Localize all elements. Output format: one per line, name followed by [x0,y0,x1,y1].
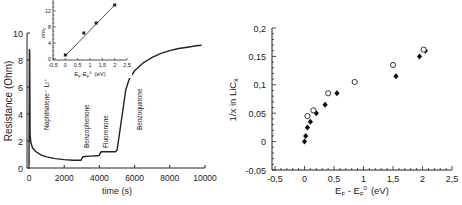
open-circle-point [305,113,310,118]
x-tick-label: 2,5 [123,62,131,68]
y-tick-label: 0 [18,164,23,174]
x-tick-label: 2000 [55,173,74,183]
filled-diamond-point [305,124,310,130]
x-tick-label: -0,5 [48,62,57,68]
y-tick-label: 8 [18,56,23,66]
inset-plot: 04812 -0,500,511,522,5 σ/σ₀ EF-EF0(eV) [40,0,132,79]
right-y-axis-label: 1/x in LiCx [227,78,239,122]
x-tick-label: 6000 [125,173,144,183]
y-tick-label: 0,05 [248,109,266,119]
right-y-ticks: -0,0500,050,10,150,2 [245,24,276,176]
y-tick-label: 4 [18,110,23,120]
filled-diamond-point [334,90,339,96]
label-fluorenone: Fluorenone [102,115,109,148]
x-tick-label: 8000 [160,173,179,183]
inset-y-axis-label: σ/σ₀ [40,28,46,39]
left-y-axis-label: Resistance (Ohm) [3,61,14,142]
x-tick-label: 0,5 [74,62,82,68]
label-benzophenone: Benzophenone [83,104,91,148]
x-tick-label: -0,5 [267,174,283,184]
y-tick-label: 6 [18,83,23,93]
x-tick-label: 2 [113,62,116,68]
x-tick-label: 1,5 [387,174,400,184]
label-benzoquinone: Benzoquinone [136,88,144,130]
open-circle-point [352,79,357,84]
y-tick-label: 0 [261,137,266,147]
data-point [95,22,98,25]
y-tick-label: 0,2 [253,24,266,34]
x-tick-label: 1,5 [99,62,107,68]
open-circle-point [390,62,395,67]
x-tick-label: 10000 [193,173,217,183]
y-tick-label: 2 [18,137,23,147]
x-tick-label: 0 [64,62,67,68]
scatter-points [302,47,428,145]
x-tick-label: 1 [361,174,366,184]
filled-diamond-point [323,102,328,108]
open-circle-point [326,91,331,96]
y-tick-label: 0,15 [248,52,266,62]
x-tick-label: 2,5 [446,174,459,184]
filled-diamond-point [417,53,422,59]
right-plot: -0,0500,050,10,150,2 -0,500,511,522,5 1/… [227,24,458,198]
y-tick-label: 12 [45,8,51,14]
right-x-axis-label: EF - EF0(eV) [335,185,389,197]
data-point [113,4,116,7]
open-circle-point [421,47,426,52]
filled-diamond-point [308,119,313,125]
data-point [82,32,85,35]
right-x-ticks: -0,500,511,522,5 [267,166,458,184]
label-naphthalene: Naphthalene⁻ Li⁺ [43,78,51,130]
figure: 0246810 0200040006000800010000 Resistanc… [0,0,462,205]
filled-diamond-point [303,133,308,139]
y-tick-label: 4 [48,40,51,46]
x-tick-label: 0 [302,174,307,184]
x-tick-label: 1 [88,62,91,68]
left-x-axis-label: time (s) [102,186,132,196]
data-point [64,54,67,57]
y-tick-label: 8 [48,24,51,30]
left-plot: 0246810 0200040006000800010000 Resistanc… [3,0,217,196]
open-circle-point [311,108,316,113]
filled-diamond-point [393,73,398,79]
x-tick-label: 0,5 [328,174,341,184]
y-tick-label: 10 [13,29,23,39]
y-tick-label: -0,05 [245,166,266,176]
y-tick-label: 0,1 [253,80,266,90]
x-tick-label: 4000 [90,173,109,183]
x-tick-label: 0 [27,173,32,183]
filled-diamond-point [302,139,307,145]
x-tick-label: 2 [420,174,425,184]
